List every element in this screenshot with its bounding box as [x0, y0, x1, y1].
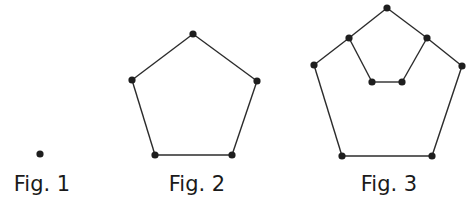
graph-vertex [253, 77, 260, 84]
graph-edge [427, 38, 462, 66]
figure-2-caption: Fig. 2 [169, 172, 225, 196]
graph-vertex [128, 76, 135, 83]
graph-vertex [458, 62, 465, 69]
graph-edge [387, 8, 427, 38]
figure-1-graph [36, 150, 43, 157]
graph-vertex [36, 150, 43, 157]
figure-1-caption: Fig. 1 [14, 172, 70, 196]
graph-vertex [428, 152, 435, 159]
graph-edge [402, 38, 427, 82]
graph-vertex [383, 4, 390, 11]
figure-2-pentagon-graph [128, 30, 260, 158]
graph-edge [432, 66, 462, 156]
graph-vertex [338, 152, 345, 159]
graph-edge [132, 80, 155, 155]
graph-vertex [310, 61, 317, 68]
graph-vertex [151, 151, 158, 158]
graph-edge [314, 38, 349, 65]
graph-vertex [228, 151, 235, 158]
figure-3-caption: Fig. 3 [361, 172, 417, 196]
graph-edge [349, 38, 372, 82]
graph-edge [132, 34, 193, 80]
graph-edge [193, 34, 257, 81]
graph-vertex [423, 34, 430, 41]
figure-3-house-graph [310, 4, 465, 159]
graph-vertex [345, 34, 352, 41]
graph-vertex [398, 78, 405, 85]
graph-edge [314, 65, 342, 156]
graph-edge [232, 81, 257, 155]
graph-vertex [368, 78, 375, 85]
graph-edge [349, 8, 387, 38]
graph-vertex [189, 30, 196, 37]
